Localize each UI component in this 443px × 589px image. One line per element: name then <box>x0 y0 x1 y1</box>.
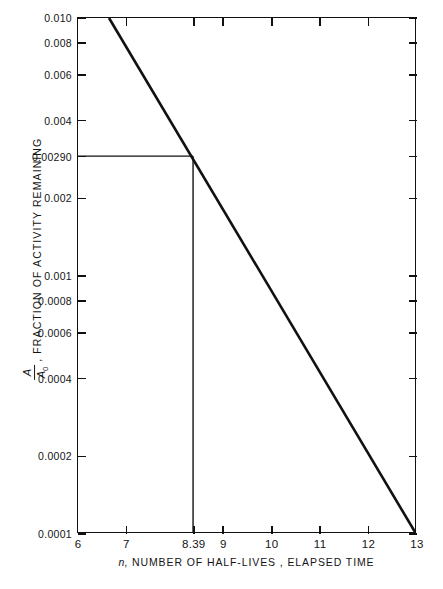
y-tick-mark <box>78 300 86 302</box>
y-tick-mark-right <box>409 456 417 458</box>
x-tick-mark-top <box>271 18 273 26</box>
x-tick-label: 8.39 <box>182 532 206 550</box>
y-tick-mark <box>78 17 86 19</box>
x-axis-title: n, NUMBER OF HALF-LIVES , ELAPSED TIME <box>77 556 416 568</box>
decay-curve-line <box>109 18 415 532</box>
y-tick-mark-right <box>409 378 417 380</box>
y-tick-mark-right <box>409 156 417 158</box>
plot-lines-svg <box>78 18 415 532</box>
y-tick-mark-right <box>409 275 417 277</box>
y-tick-mark <box>78 275 86 277</box>
x-tick-mark-top <box>126 18 128 26</box>
x-tick-mark-top <box>368 18 370 26</box>
x-tick-label: 10 <box>265 532 278 550</box>
x-tick-label: 7 <box>123 532 130 550</box>
y-tick-label: 0.0001 <box>38 528 78 540</box>
y-axis-title-text: , FRACTION OF ACTIVITY REMAINING <box>31 138 43 362</box>
fraction-numerator: A <box>22 367 34 378</box>
x-tick-label: 11 <box>314 532 327 550</box>
y-tick-mark-right <box>409 332 417 334</box>
fraction-denominator-subscript: 0 <box>41 367 50 371</box>
y-tick-mark <box>78 332 86 334</box>
y-axis-title: A A0 , FRACTION OF ACTIVITY REMAINING <box>23 104 51 414</box>
y-tick-mark <box>78 74 86 76</box>
y-tick-mark-right <box>409 42 417 44</box>
figure-radioactive-decay-chart: 0.0100.0080.0060.0040.002900.0020.0010.0… <box>0 0 443 589</box>
x-tick-mark-top <box>222 18 224 26</box>
y-tick-mark <box>78 198 86 200</box>
x-tick-mark-top <box>319 18 321 26</box>
y-tick-mark-right <box>409 120 417 122</box>
y-tick-mark <box>78 156 86 158</box>
x-tick-label: 12 <box>362 532 375 550</box>
y-tick-label: 0.010 <box>44 12 78 24</box>
plot-area: 0.0100.0080.0060.0040.002900.0020.0010.0… <box>77 17 416 533</box>
x-tick-label: 13 <box>410 532 423 550</box>
x-tick-label: 6 <box>75 532 82 550</box>
y-tick-mark <box>78 120 86 122</box>
y-tick-mark-right <box>409 300 417 302</box>
x-tick-label: 9 <box>220 532 227 550</box>
y-tick-mark-right <box>409 17 417 19</box>
y-tick-mark <box>78 378 86 380</box>
x-axis-title-text: , NUMBER OF HALF-LIVES , ELAPSED TIME <box>124 556 374 568</box>
y-tick-mark <box>78 456 86 458</box>
fraction-denominator: A0 <box>35 365 50 381</box>
y-tick-mark-right <box>409 74 417 76</box>
x-tick-mark-top <box>193 18 195 26</box>
y-tick-label: 0.0002 <box>38 450 78 462</box>
y-tick-label: 0.008 <box>44 37 78 49</box>
y-tick-mark <box>78 42 86 44</box>
fraction-a-over-a0: A A0 <box>22 365 50 381</box>
fraction-denominator-letter: A <box>35 371 47 378</box>
y-tick-label: 0.006 <box>44 69 78 81</box>
y-tick-mark-right <box>409 198 417 200</box>
